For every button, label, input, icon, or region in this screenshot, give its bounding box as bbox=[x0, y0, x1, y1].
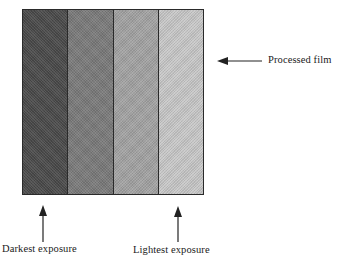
processed-film bbox=[22, 9, 204, 195]
arrow-up-icon bbox=[39, 205, 47, 242]
strip-darkest bbox=[23, 10, 68, 194]
strip-lightest bbox=[159, 10, 203, 194]
strip-light bbox=[114, 10, 159, 194]
lightest-exposure-label: Lightest exposure bbox=[133, 244, 210, 255]
arrow-left-icon bbox=[217, 57, 262, 65]
darkest-exposure-label: Darkest exposure bbox=[2, 243, 77, 254]
strip-dark bbox=[68, 10, 113, 194]
arrow-up-icon bbox=[174, 206, 182, 242]
processed-film-label: Processed film bbox=[268, 54, 332, 65]
